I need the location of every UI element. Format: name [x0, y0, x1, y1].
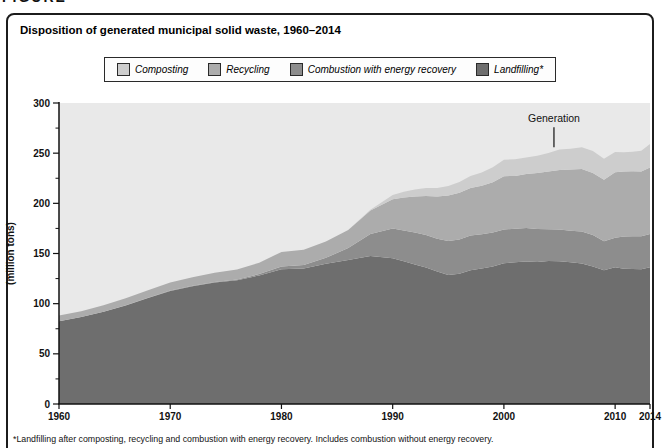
footnote: *Landfilling after composting, recycling… [13, 434, 493, 444]
legend-swatch [476, 63, 489, 76]
x-tick-label: 2010 [604, 411, 627, 422]
y-tick-label: 0 [44, 399, 50, 410]
figure-label: FIGURE [2, 0, 142, 4]
y-tick-label: 300 [33, 98, 50, 109]
x-tick-label: 1960 [48, 411, 71, 422]
chart-svg: 0501001502002503001960197019801990200020… [0, 92, 664, 448]
figure-title: Disposition of generated municipal solid… [8, 15, 652, 36]
legend: CompostingRecyclingCombustion with energ… [104, 57, 556, 82]
chart: 0501001502002503001960197019801990200020… [0, 92, 664, 448]
legend-label: Combustion with energy recovery [308, 64, 456, 75]
legend-swatch [208, 63, 221, 76]
y-tick-label: 200 [33, 198, 50, 209]
legend-label: Composting [135, 64, 188, 75]
x-tick-label: 1980 [270, 411, 293, 422]
y-tick-label: 50 [39, 348, 51, 359]
legend-item: Landfilling* [476, 63, 543, 76]
legend-label: Recycling [226, 64, 269, 75]
y-axis-label: (million tons) [5, 222, 16, 285]
legend-item: Recycling [208, 63, 269, 76]
legend-swatch [290, 63, 303, 76]
x-tick-label: 2000 [493, 411, 516, 422]
x-tick-label: 2014 [639, 411, 662, 422]
figure-label-text: FIGURE [2, 0, 142, 4]
y-tick-label: 150 [33, 248, 50, 259]
y-tick-label: 100 [33, 298, 50, 309]
x-tick-label: 1970 [159, 411, 182, 422]
x-tick-label: 1990 [382, 411, 405, 422]
legend-label: Landfilling* [494, 64, 543, 75]
generation-annotation-label: Generation [528, 112, 580, 124]
legend-item: Combustion with energy recovery [290, 63, 456, 76]
y-tick-label: 250 [33, 148, 50, 159]
legend-swatch [117, 63, 130, 76]
legend-item: Composting [117, 63, 188, 76]
